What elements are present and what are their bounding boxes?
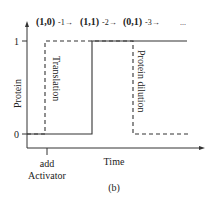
- transition-2: -2→: [102, 18, 117, 27]
- y-axis-label: Protein: [12, 79, 23, 108]
- state-3: (0,1): [123, 16, 142, 28]
- state-2: (1,1): [80, 16, 99, 28]
- solid-series-line: [27, 41, 187, 134]
- x-tick-label-activator: Activator: [28, 170, 66, 181]
- transition-3: -3→: [145, 18, 160, 27]
- protein-dynamics-diagram: (1,0) -1→ (1,1) -2→ (0,1) -3→ ... 1 0 Pr…: [0, 0, 209, 201]
- x-tick-label-add: add: [40, 158, 54, 169]
- transition-1: -1→: [58, 18, 73, 27]
- state-sequence: (1,0) -1→ (1,1) -2→ (0,1) -3→ ...: [36, 16, 186, 28]
- x-axis-arrow-icon: [199, 146, 205, 150]
- x-axis-label: Time: [104, 156, 125, 167]
- y-tick-label-1: 1: [14, 36, 19, 47]
- ellipsis: ...: [180, 18, 186, 27]
- y-tick-label-0: 0: [14, 129, 19, 140]
- y-axis-arrow-icon: [25, 21, 29, 27]
- state-1: (1,0): [36, 16, 55, 28]
- translation-annotation: Translation: [51, 56, 62, 101]
- figure-caption: (b): [108, 182, 120, 194]
- dilution-annotation: Protein dilution: [136, 50, 147, 113]
